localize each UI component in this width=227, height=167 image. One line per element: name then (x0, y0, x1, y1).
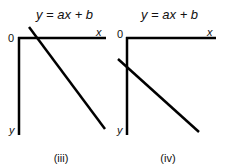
caption-iv: (iv) (160, 152, 175, 164)
caption-iii: (iii) (54, 152, 69, 164)
graph-line-iv (118, 59, 199, 132)
diagram-canvas: y = ax + b 0 x y (iii) y = ax + b 0 x y … (0, 0, 227, 167)
x-axis-label-iv: x (206, 26, 213, 38)
equation-iii: y = ax + b (35, 7, 93, 22)
origin-label-iv: 0 (117, 28, 123, 40)
y-axis-label-iv: y (116, 124, 124, 136)
y-axis-label-iii: y (8, 124, 16, 136)
graph-line-iii (29, 27, 105, 129)
origin-label-iii: 0 (8, 32, 14, 44)
x-axis-label-iii: x (95, 26, 102, 38)
panel-iv: y = ax + b 0 x y (iv) (116, 7, 216, 164)
equation-iv: y = ax + b (140, 7, 198, 22)
panel-iii: y = ax + b 0 x y (iii) (8, 7, 106, 164)
